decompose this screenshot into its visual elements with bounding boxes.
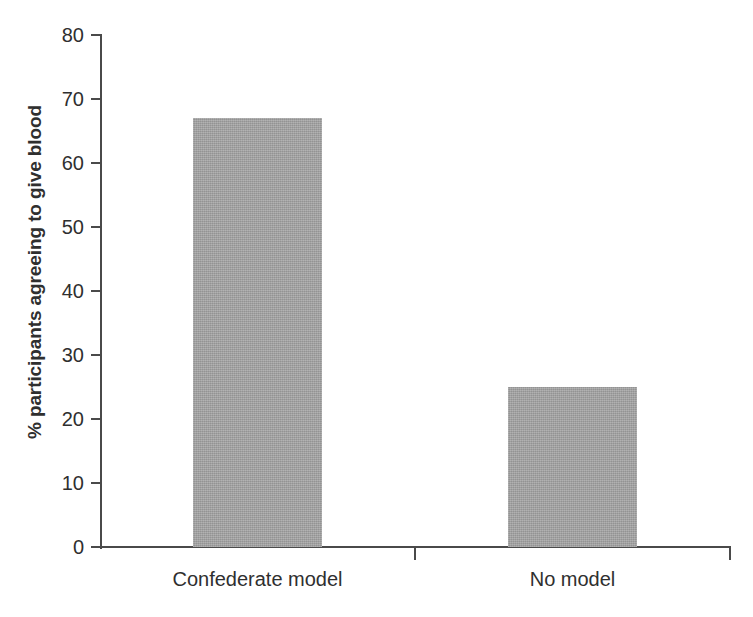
y-axis-tick-label: 70: [0, 89, 84, 109]
y-axis-tick-label: 60: [0, 153, 84, 173]
bars-layer: [100, 35, 730, 547]
x-axis-tick-mark: [414, 547, 416, 560]
y-axis-tick-label-text: 70: [40, 89, 84, 109]
y-axis-tick-label-text: 20: [40, 409, 84, 429]
bar: [193, 118, 322, 547]
y-axis-tick-label: 50: [0, 217, 84, 237]
y-axis-tick-label-text: 60: [40, 153, 84, 173]
x-axis-category-label: No model: [415, 567, 730, 591]
y-axis-tick-label-text: 50: [40, 217, 84, 237]
x-axis-tick-mark: [729, 547, 731, 560]
bar: [508, 387, 637, 547]
y-axis-tick-label: 30: [0, 345, 84, 365]
y-axis-tick-label-text: 10: [40, 473, 84, 493]
y-axis-tick-label: 20: [0, 409, 84, 429]
y-axis-tick-label: 10: [0, 473, 84, 493]
bar-chart-figure: % participants agreeing to give blood 01…: [0, 0, 753, 617]
x-axis-category-label: Confederate model: [100, 567, 415, 591]
y-axis-tick-label-text: 30: [40, 345, 84, 365]
y-axis-tick-label-text: 0: [40, 537, 84, 557]
y-axis-title: % participants agreeing to give blood: [18, 0, 52, 552]
y-axis-tick-label: 40: [0, 281, 84, 301]
y-axis-tick-label-text: 40: [40, 281, 84, 301]
y-axis-tick-label: 0: [0, 537, 84, 557]
y-axis-tick-label: 80: [0, 25, 84, 45]
y-axis-tick-label-text: 80: [40, 25, 84, 45]
